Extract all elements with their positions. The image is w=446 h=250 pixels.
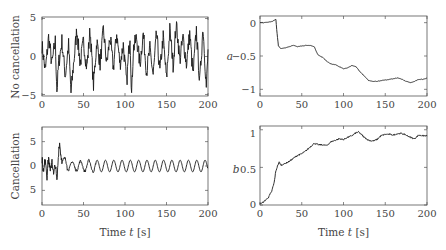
y-tick-label: 0 xyxy=(250,18,256,29)
plot-b: 1 0.5 0 0 50 100 150 200 b Time t [s] xyxy=(233,126,437,238)
y-tick-label: −1 xyxy=(241,84,256,95)
x-tick-label: 0 xyxy=(257,99,263,110)
plot-cancellation: 5 0 5 0 50 100 150 200 Cancellation Time… xyxy=(9,127,218,238)
x-tick-label: 150 xyxy=(376,99,395,110)
x-tick-label: 50 xyxy=(77,99,90,110)
y-tick-label: 0 xyxy=(250,199,256,210)
axis-ticks xyxy=(260,126,427,205)
plot-frame xyxy=(260,16,427,96)
y-axis-label: No cancellation xyxy=(9,15,21,99)
x-tick-label: 50 xyxy=(77,208,90,219)
x-tick-label: 0 xyxy=(39,208,45,219)
x-tick-label: 200 xyxy=(417,208,436,219)
y-tick-label: 5 xyxy=(30,12,36,23)
x-tick-label: 100 xyxy=(115,208,134,219)
x-tick-label: 100 xyxy=(334,208,353,219)
y-tick-label: 0 xyxy=(30,51,36,62)
a-line xyxy=(260,19,427,82)
x-tick-label: 200 xyxy=(417,99,436,110)
x-tick-label: 150 xyxy=(376,208,395,219)
b-line xyxy=(260,131,427,203)
x-axis-label: Time t [s] xyxy=(318,226,369,238)
signal-line xyxy=(42,143,208,180)
x-axis-label: Time t [s] xyxy=(99,226,150,238)
x-tick-label: 100 xyxy=(115,99,134,110)
figure: 5 0 −5 0 50 100 150 200 No cancellation … xyxy=(0,0,446,250)
x-tick-label: 100 xyxy=(334,99,353,110)
y-axis-label: a xyxy=(227,50,233,62)
x-tick-label: 150 xyxy=(157,99,176,110)
y-tick-label: 0.5 xyxy=(240,164,256,175)
x-tick-label: 0 xyxy=(257,208,263,219)
y-axis-label: Cancellation xyxy=(9,132,21,199)
signal-line xyxy=(42,22,208,93)
y-tick-label: −5 xyxy=(21,90,36,101)
y-tick-label: 1 xyxy=(250,128,256,139)
y-axis-label: b xyxy=(233,163,240,175)
x-tick-label: 0 xyxy=(39,99,45,110)
y-tick-label: −0.5 xyxy=(232,51,256,62)
y-tick-label: 5 xyxy=(30,184,36,195)
plot-no-cancellation: 5 0 −5 0 50 100 150 200 No cancellation xyxy=(9,12,218,110)
x-tick-label: 50 xyxy=(295,208,308,219)
axis-ticks xyxy=(260,16,427,96)
x-tick-label: 50 xyxy=(295,99,308,110)
x-tick-label: 150 xyxy=(157,208,176,219)
y-tick-label: 0 xyxy=(30,160,36,171)
x-tick-label: 200 xyxy=(198,208,217,219)
y-tick-label: 5 xyxy=(30,136,36,147)
plot-frame xyxy=(260,126,427,205)
plot-a: 0 −0.5 −1 0 50 100 150 200 a xyxy=(227,16,437,110)
x-tick-label: 200 xyxy=(198,99,217,110)
